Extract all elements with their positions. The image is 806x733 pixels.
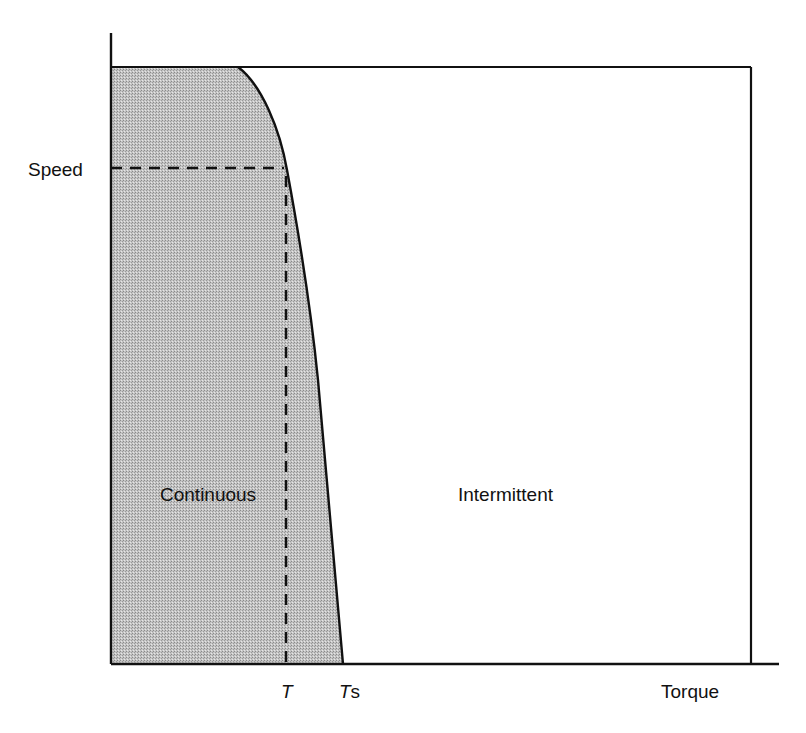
x-axis-label: Torque (661, 681, 719, 703)
x-mark-t: T (281, 681, 293, 703)
continuous-region (111, 67, 343, 664)
region-label-intermittent: Intermittent (458, 484, 553, 506)
x-mark-ts: Ts (339, 681, 360, 703)
region-label-continuous: Continuous (160, 484, 256, 506)
x-mark-ts-sub: s (351, 681, 361, 702)
y-axis-label: Speed (28, 159, 83, 181)
x-mark-ts-main: T (339, 681, 351, 702)
torque-speed-diagram (0, 0, 806, 733)
